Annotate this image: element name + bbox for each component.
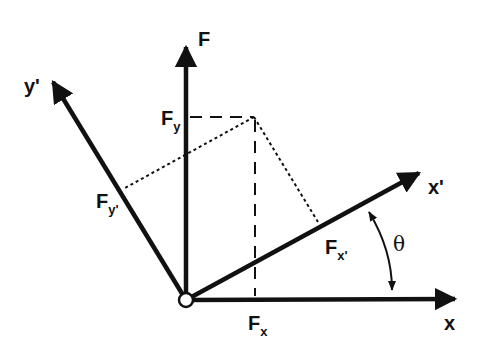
x-prime-label: x': [428, 176, 444, 198]
theta-angle-arc: [369, 212, 392, 290]
x-prime-axis-arrow: [186, 173, 419, 300]
Fy-label: Fy: [161, 107, 181, 134]
projection-lines: [125, 117, 318, 296]
Fx-label: Fx: [248, 312, 268, 339]
theta-label: θ: [393, 232, 405, 256]
Fyp-dotted-projection: [125, 117, 254, 188]
x-label: x: [444, 312, 455, 334]
y-prime-label: y': [24, 75, 40, 97]
origin-pivot-icon: [179, 293, 193, 307]
F-label: F: [198, 28, 210, 50]
Fxp-dotted-projection: [254, 117, 318, 222]
force-resolution-diagram: F y' x' x Fy Fx Fx' Fy' θ: [0, 0, 483, 353]
Fx-prime-label: Fx': [325, 236, 348, 263]
Fy-prime-label: Fy': [96, 190, 119, 217]
x-axis-arrow: [186, 299, 455, 300]
